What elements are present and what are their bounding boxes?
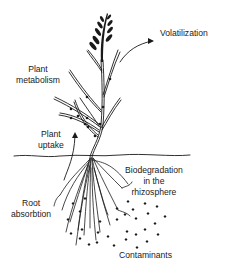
label-contaminants: Contaminants: [119, 250, 172, 261]
label-biodegradation-line2: in the: [125, 176, 183, 187]
label-root-absorption-line2: absorbtion: [11, 209, 51, 220]
plant-uptake-arrow: [64, 136, 75, 180]
label-plant-uptake-line1: Plant: [38, 129, 64, 140]
volatilization-arrow: [120, 41, 152, 62]
plant-leaves: [54, 50, 121, 137]
label-plant-metabolism: Plant metabolism: [16, 64, 60, 86]
label-biodegradation: Biodegradation in the rhizosphere: [125, 165, 183, 198]
label-volatilization: Volatilization: [160, 28, 208, 39]
ground-line: [14, 154, 190, 156]
label-root-absorption-line1: Root: [11, 198, 51, 209]
label-root-absorption: Root absorbtion: [11, 198, 51, 220]
label-plant-metabolism-line2: metabolism: [16, 75, 60, 86]
plant-stem: [90, 60, 102, 157]
label-biodegradation-line3: rhizosphere: [125, 187, 183, 198]
label-plant-uptake: Plant uptake: [38, 129, 64, 151]
label-plant-uptake-line2: uptake: [38, 140, 64, 151]
label-biodegradation-line1: Biodegradation: [125, 165, 183, 176]
roots: [54, 158, 132, 245]
phytoremediation-diagram: [0, 0, 226, 271]
label-plant-metabolism-line1: Plant: [16, 64, 60, 75]
